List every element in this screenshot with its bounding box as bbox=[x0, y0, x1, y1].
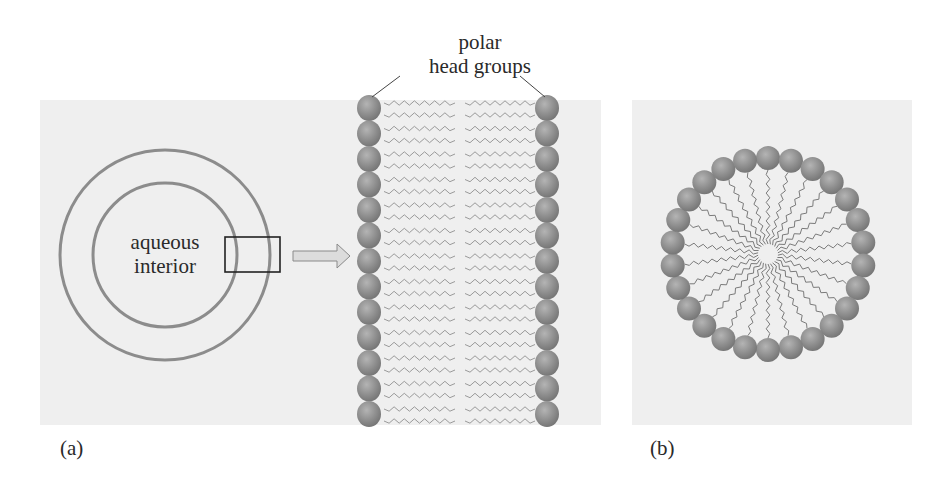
lipid-tail bbox=[384, 126, 455, 130]
micelle-tail bbox=[685, 243, 759, 254]
polar-head-sphere bbox=[535, 248, 559, 274]
panel-a-label: (a) bbox=[60, 436, 83, 460]
micelle-diagram bbox=[661, 146, 876, 362]
lipid-tail bbox=[384, 291, 455, 295]
micelle-head-sphere bbox=[666, 208, 690, 232]
micelle-head-sphere bbox=[779, 149, 803, 173]
lipid-tail bbox=[384, 381, 455, 385]
lipid-tail bbox=[465, 177, 535, 181]
lipid-tail bbox=[384, 368, 455, 372]
micelle-head-sphere bbox=[801, 327, 825, 351]
interior-label-line-2: interior bbox=[105, 254, 225, 278]
lipid-tail bbox=[465, 330, 535, 334]
panel-b-label: (b) bbox=[650, 436, 675, 460]
polar-head-sphere bbox=[357, 376, 381, 402]
micelle-head-sphere bbox=[733, 149, 757, 173]
micelle-head-sphere bbox=[835, 187, 859, 211]
polar-head-sphere bbox=[535, 350, 559, 376]
lipid-tail bbox=[465, 126, 535, 130]
micelle-head-sphere bbox=[666, 276, 690, 300]
lipid-tail bbox=[465, 215, 535, 219]
polar-head-sphere bbox=[535, 146, 559, 172]
micelle-tail bbox=[778, 254, 852, 265]
lipid-tail bbox=[384, 177, 455, 181]
micelle-head-sphere bbox=[661, 230, 685, 254]
micelle-head-sphere bbox=[846, 208, 870, 232]
micelle-head-sphere bbox=[733, 335, 757, 359]
polar-head-sphere bbox=[357, 197, 381, 223]
polar-head-sphere bbox=[357, 274, 381, 300]
polar-head-sphere bbox=[357, 325, 381, 351]
micelle-tail bbox=[773, 180, 807, 246]
lipid-tail bbox=[465, 203, 535, 207]
lipid-tail bbox=[465, 393, 535, 397]
lipid-tail bbox=[384, 240, 455, 244]
polar-head-sphere bbox=[357, 299, 381, 325]
lipid-tail bbox=[384, 113, 455, 117]
lipid-tail bbox=[384, 101, 455, 105]
micelle-head-sphere bbox=[851, 230, 875, 254]
polar-head-sphere bbox=[357, 95, 381, 121]
figure: polar head groups aqueous interior (a) (… bbox=[0, 0, 946, 485]
lipid-tail bbox=[384, 254, 455, 258]
lipid-tail bbox=[465, 164, 535, 168]
lipid-tail bbox=[465, 266, 535, 270]
lipid-tail bbox=[465, 305, 535, 309]
micelle-tail bbox=[729, 180, 763, 246]
micelle-head-sphere bbox=[846, 276, 870, 300]
polar-head-sphere bbox=[535, 325, 559, 351]
lipid-tail bbox=[465, 254, 535, 258]
annotation-line-1: polar bbox=[400, 30, 560, 54]
lipid-tail bbox=[465, 381, 535, 385]
lipid-tail bbox=[384, 189, 455, 193]
polar-head-sphere bbox=[357, 350, 381, 376]
lipid-tail bbox=[465, 138, 535, 142]
right-arrow-icon bbox=[293, 244, 350, 268]
micelle-tail bbox=[773, 263, 807, 329]
micelle-head-sphere bbox=[661, 254, 685, 278]
lipid-tail bbox=[465, 279, 535, 283]
lipid-tail bbox=[465, 407, 535, 411]
micelle-head-sphere bbox=[677, 297, 701, 321]
polar-head-sphere bbox=[535, 95, 559, 121]
lipid-tail bbox=[384, 419, 455, 423]
lipid-tail bbox=[384, 152, 455, 156]
lipid-tail bbox=[384, 279, 455, 283]
polar-head-sphere bbox=[357, 146, 381, 172]
polar-head-sphere bbox=[535, 401, 559, 427]
micelle-head-sphere bbox=[779, 335, 803, 359]
lipid-tail bbox=[465, 356, 535, 360]
lipid-tail bbox=[384, 203, 455, 207]
lipid-tail bbox=[465, 291, 535, 295]
micelle-tail bbox=[712, 191, 761, 246]
micelle-head-sphere bbox=[851, 254, 875, 278]
lipid-tail bbox=[384, 305, 455, 309]
lipid-tail bbox=[465, 152, 535, 156]
micelle-tail bbox=[766, 170, 770, 244]
lipid-tail bbox=[465, 101, 535, 105]
lipid-tail bbox=[465, 240, 535, 244]
lipid-tail bbox=[465, 317, 535, 321]
lipid-tail bbox=[465, 228, 535, 232]
lipid-tail bbox=[384, 393, 455, 397]
micelle-tail bbox=[766, 264, 770, 338]
lipid-tail bbox=[384, 138, 455, 142]
annotation-leader-line bbox=[372, 76, 400, 97]
lipid-tail bbox=[384, 407, 455, 411]
lipid-tail bbox=[384, 266, 455, 270]
micelle-tail bbox=[777, 224, 846, 250]
polar-head-sphere bbox=[357, 248, 381, 274]
polar-head-sphere bbox=[535, 121, 559, 147]
annotation-leader-line bbox=[520, 76, 545, 97]
micelle-tail bbox=[699, 206, 760, 248]
lipid-tail bbox=[384, 228, 455, 232]
lipid-tail bbox=[465, 368, 535, 372]
aqueous-interior-label: aqueous interior bbox=[105, 230, 225, 278]
lipid-tail bbox=[384, 164, 455, 168]
polar-head-sphere bbox=[535, 223, 559, 249]
lipid-tail bbox=[384, 317, 455, 321]
lipid-tail bbox=[384, 215, 455, 219]
micelle-tail bbox=[690, 258, 759, 284]
micelle-head-sphere bbox=[711, 157, 735, 181]
interior-label-line-1: aqueous bbox=[105, 230, 225, 254]
